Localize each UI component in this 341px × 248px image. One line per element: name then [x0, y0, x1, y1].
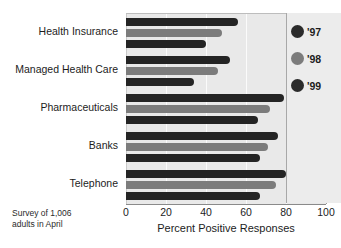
chart-legend: '97'98'99	[291, 18, 339, 99]
bar	[126, 181, 276, 189]
legend-swatch-icon	[291, 52, 304, 65]
bar	[126, 18, 238, 26]
bar	[126, 94, 284, 102]
category-label: Telephone	[0, 178, 118, 189]
bar	[126, 78, 194, 86]
chart-title	[0, 0, 340, 5]
category-axis: Health InsuranceManaged Health CarePharm…	[0, 13, 122, 203]
x-axis-title: Percent Positive Responses	[126, 222, 326, 234]
bar	[126, 143, 268, 151]
category-label: Managed Health Care	[0, 64, 118, 75]
legend-item[interactable]: '97	[291, 18, 339, 45]
bar	[126, 116, 258, 124]
category-label: Pharmaceuticals	[0, 102, 118, 113]
category-label: Health Insurance	[0, 26, 118, 37]
legend-label: '98	[307, 53, 321, 65]
x-tick-label: 80	[280, 206, 292, 218]
x-tick-label: 20	[160, 206, 172, 218]
legend-label: '99	[307, 80, 321, 92]
legend-label: '97	[307, 26, 321, 38]
x-tick-label: 100	[317, 206, 335, 218]
x-axis: 020406080100	[126, 206, 326, 220]
bar	[126, 105, 270, 113]
source-note-line-2: adults in April	[12, 219, 118, 230]
bar	[126, 170, 286, 178]
bar	[126, 40, 206, 48]
bar	[126, 56, 230, 64]
bar	[126, 192, 260, 200]
bar	[126, 132, 278, 140]
source-note: Survey of 1,006 adults in April	[12, 208, 118, 229]
legend-swatch-icon	[291, 79, 304, 92]
bar	[126, 67, 218, 75]
legend-item[interactable]: '99	[291, 72, 339, 99]
bar	[126, 154, 260, 162]
x-tick-label: 0	[123, 206, 129, 218]
x-tick-label: 60	[240, 206, 252, 218]
bar	[126, 29, 222, 37]
category-label: Banks	[0, 140, 118, 151]
legend-item[interactable]: '98	[291, 45, 339, 72]
legend-swatch-icon	[291, 25, 304, 38]
source-note-line-1: Survey of 1,006	[12, 208, 118, 219]
x-tick-label: 40	[200, 206, 212, 218]
